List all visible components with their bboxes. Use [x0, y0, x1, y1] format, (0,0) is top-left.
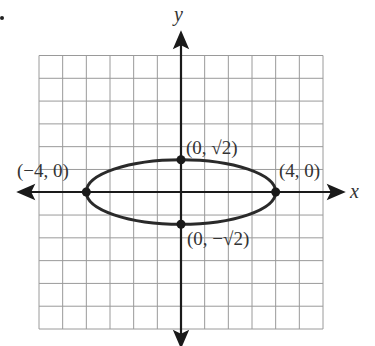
y-axis-bottom-arrow-icon — [175, 332, 187, 346]
x-axis-right-arrow-icon — [329, 186, 343, 198]
vertex-point — [82, 188, 91, 197]
top-vertex-label: (0, √2) — [186, 138, 238, 157]
bottom-vertex-label: (0, −√2) — [187, 229, 249, 248]
vertex-point — [271, 188, 280, 197]
vertex-point — [177, 155, 186, 164]
y-axis-label: y — [174, 4, 183, 24]
vertex-point — [177, 220, 186, 229]
axes — [19, 33, 343, 346]
right-vertex-label: (4, 0) — [279, 161, 320, 180]
x-axis-left-arrow-icon — [19, 186, 33, 198]
left-vertex-label: (−4, 0) — [17, 161, 69, 180]
y-axis-top-arrow-icon — [175, 33, 187, 47]
x-axis-label: x — [350, 181, 359, 201]
